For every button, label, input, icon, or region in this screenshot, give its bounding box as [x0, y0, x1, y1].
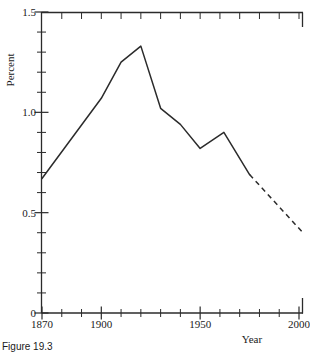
- y-tick-label: 0.5: [22, 207, 36, 219]
- y-tick-labels: 00.51.01.5: [22, 6, 36, 319]
- x-tick-label: 1950: [189, 318, 212, 330]
- figure-caption: Figure 19.3: [2, 341, 53, 352]
- x-tick-label: 1900: [90, 318, 113, 330]
- y-tick-label: 1.5: [22, 6, 36, 18]
- x-axis-title: Year: [242, 333, 263, 345]
- y-tick-label: 1.0: [22, 106, 36, 118]
- data-series-projected: [250, 175, 303, 233]
- axes-frame: [42, 12, 304, 314]
- x-tick-label: 2000: [288, 318, 310, 330]
- top-edge-ticks: [62, 13, 299, 20]
- y-axis-title: Percent: [4, 54, 16, 87]
- data-series-observed: [42, 46, 250, 178]
- x-tick-labels: 1870190019502000: [31, 318, 310, 330]
- x-tick-label: 1870: [31, 318, 54, 330]
